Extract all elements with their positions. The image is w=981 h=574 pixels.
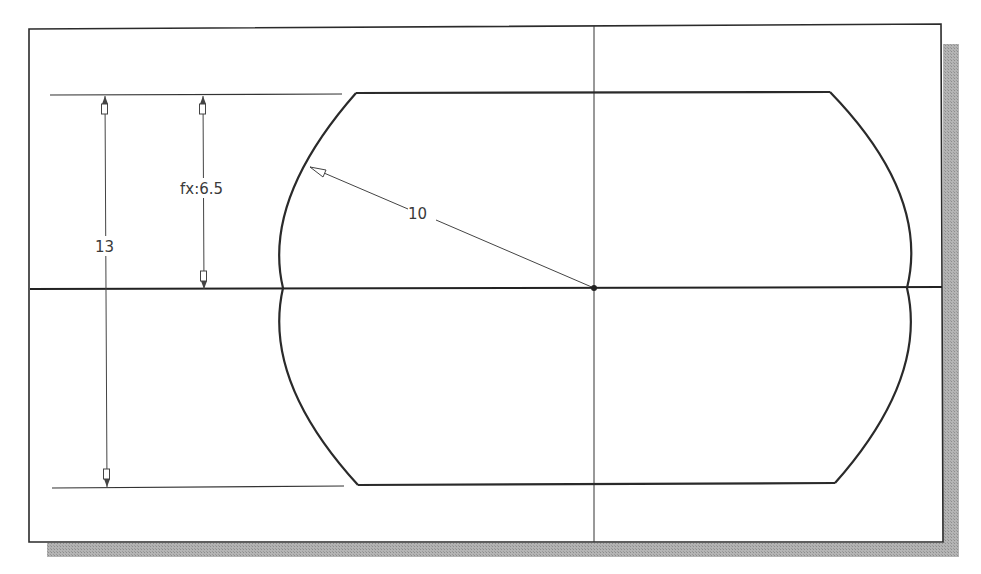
center-point[interactable] [591, 285, 597, 291]
sketch-frame [29, 24, 943, 542]
dimension-label-10[interactable]: 10 [408, 205, 427, 223]
sketch-canvas: 13 fx:6.5 10 [0, 0, 981, 574]
dimension-label-fx-6-5[interactable]: fx:6.5 [180, 180, 223, 198]
top-edge[interactable] [356, 92, 830, 93]
dimension-label-13[interactable]: 13 [95, 238, 114, 256]
